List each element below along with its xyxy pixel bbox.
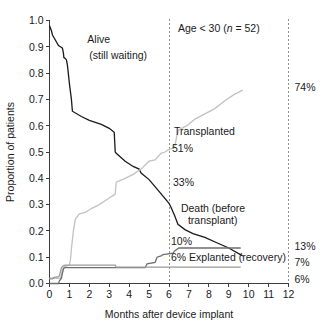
survival-curve-chart: 0123456789101112 0.00.10.20.30.40.50.60.… <box>0 0 327 328</box>
y-tick-label: 0.0 <box>29 277 44 289</box>
x-tick-label: 10 <box>243 288 255 300</box>
x-tick-label: 3 <box>106 288 112 300</box>
death-pct-10: 10% <box>171 235 192 247</box>
y-tick-label: 0.4 <box>29 172 44 184</box>
y-tick-label: 0.5 <box>29 146 44 158</box>
x-tick-label: 11 <box>263 288 274 300</box>
transplanted-pct-51: 51% <box>172 142 193 154</box>
right-pct-13: 13% <box>295 240 316 252</box>
death-label-line2: transplant) <box>188 214 238 226</box>
cohort-annotation-suffix: = 52) <box>233 22 260 34</box>
x-tick-label: 12 <box>283 288 295 300</box>
x-axis-title: Months after device implant <box>105 308 233 320</box>
y-tick-label: 0.1 <box>29 251 44 263</box>
x-tick-label: 8 <box>206 288 212 300</box>
cohort-annotation-prefix: Age < 30 ( <box>178 22 227 34</box>
alive-label-line2: (still waiting) <box>89 49 147 61</box>
y-axis-tick-labels: 0.00.10.20.30.40.50.60.70.80.91.0 <box>29 14 44 289</box>
x-tick-label: 1 <box>66 288 72 300</box>
x-tick-label: 7 <box>186 288 192 300</box>
x-axis-tick-labels: 0123456789101112 <box>47 288 295 300</box>
y-tick-label: 0.6 <box>29 120 44 132</box>
y-axis-ticks <box>46 21 50 284</box>
right-pct-7: 7% <box>295 256 310 268</box>
cohort-annotation: Age < 30 (n = 52) <box>178 22 260 34</box>
y-axis-title: Proportion of patients <box>4 102 16 202</box>
x-tick-label: 4 <box>126 288 132 300</box>
x-tick-label: 5 <box>146 288 152 300</box>
figure-container: 0123456789101112 0.00.10.20.30.40.50.60.… <box>0 0 327 328</box>
y-tick-label: 0.9 <box>29 41 44 53</box>
y-tick-label: 0.2 <box>29 225 44 237</box>
y-tick-label: 0.3 <box>29 198 44 210</box>
alive-label-line1: Alive <box>87 33 110 45</box>
inline-annotations-group: Alive(still waiting)Transplanted51%33%De… <box>87 33 286 263</box>
y-tick-label: 1.0 <box>29 14 44 26</box>
y-tick-label: 0.7 <box>29 93 44 105</box>
right-pct-74: 74% <box>295 81 316 93</box>
y-tick-label: 0.8 <box>29 67 44 79</box>
x-tick-label: 6 <box>166 288 172 300</box>
transplanted-label: Transplanted <box>174 125 235 137</box>
x-axis-ticks <box>50 284 289 288</box>
x-tick-label: 9 <box>226 288 232 300</box>
explanted-label: 6% Explanted (recovery) <box>171 251 286 263</box>
right-edge-labels-group: 74%13%7%6% <box>295 81 316 284</box>
x-tick-label: 2 <box>86 288 92 300</box>
series-transplanted <box>50 90 243 278</box>
x-tick-label: 0 <box>47 288 53 300</box>
alive-pct-33: 33% <box>173 176 194 188</box>
death-label-line1: Death (before <box>181 202 245 214</box>
right-pct-6: 6% <box>295 273 310 285</box>
data-series-group <box>50 26 243 284</box>
